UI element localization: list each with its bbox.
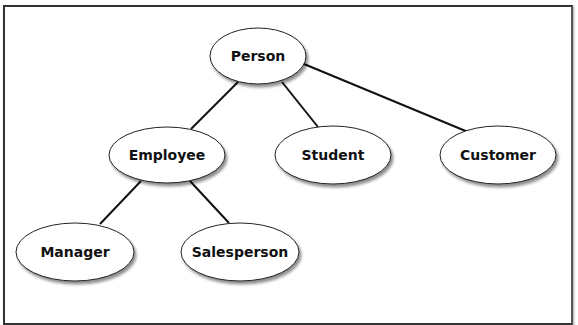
node-person: Person [210,28,306,84]
node-manager: Manager [16,223,134,281]
edge-employee-salesperson [190,181,229,223]
nodes-layer: PersonEmployeeStudentCustomerManagerSale… [16,28,556,281]
node-salesperson: Salesperson [181,223,299,281]
node-label: Salesperson [192,244,289,260]
node-label: Person [231,48,286,64]
edge-person-customer [304,64,468,132]
node-label: Student [302,147,365,163]
node-customer: Customer [440,126,556,184]
node-student: Student [275,126,391,184]
edge-person-employee [191,82,238,129]
node-employee: Employee [109,127,225,183]
node-label: Manager [40,244,109,260]
edge-person-student [282,82,318,127]
node-label: Employee [129,147,206,163]
node-label: Customer [460,147,536,163]
edge-employee-manager [100,181,141,224]
